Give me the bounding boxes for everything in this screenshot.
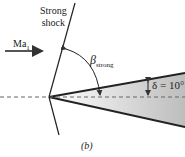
shock-label: Strong shock [40, 5, 67, 29]
mach-label: Ma1 [13, 39, 30, 52]
delta-label: δ = 10° [152, 80, 184, 91]
shock-lower-line [49, 97, 59, 135]
beta-label: βstrong [90, 54, 113, 69]
caption: (b) [81, 141, 93, 151]
